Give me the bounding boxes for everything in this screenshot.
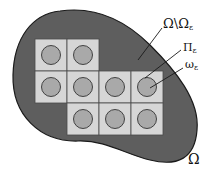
label-outer-domain: Ω <box>188 152 200 166</box>
label-complement-sub: ε <box>189 23 193 32</box>
inclusion-circle <box>106 78 125 97</box>
label-cell-main: Π <box>183 41 193 54</box>
inclusion-circle <box>138 78 157 97</box>
inclusion-circle <box>138 110 157 129</box>
label-cell-sub: ε <box>193 46 197 55</box>
label-complement-main: Ω\Ω <box>163 16 189 31</box>
label-inclusion-main: ω <box>185 58 194 71</box>
inclusion-circle <box>42 46 61 65</box>
label-complement: Ω\Ωε <box>163 17 193 32</box>
label-inclusion: ωε <box>185 59 198 72</box>
inclusion-circle <box>42 78 61 97</box>
inclusion-circle <box>74 46 93 65</box>
label-inclusion-sub: ε <box>194 63 198 72</box>
label-outer-main: Ω <box>188 151 200 167</box>
inclusion-circle <box>74 110 93 129</box>
inclusion-circle <box>106 110 125 129</box>
inclusion-circle <box>74 78 93 97</box>
label-cell-region: Πε <box>183 42 197 55</box>
